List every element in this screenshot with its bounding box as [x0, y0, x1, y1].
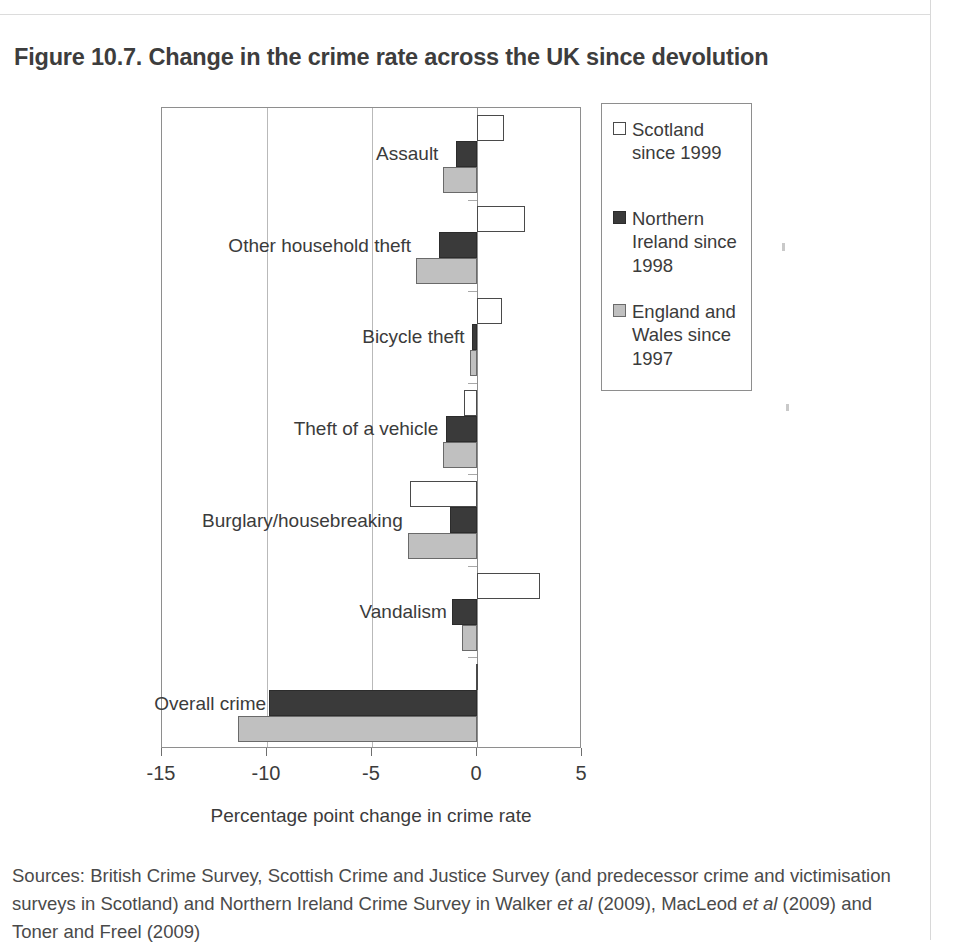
- bar-england-wales-other-household-theft: [416, 258, 477, 284]
- bar-england-wales-bicycle-theft: [470, 350, 477, 376]
- bar-northern-ireland-assault: [456, 141, 477, 167]
- bar-scotland-theft-of-a-vehicle: [464, 390, 477, 416]
- x-tick-label-5: 5: [575, 762, 586, 785]
- x-tick-label--10: -10: [252, 762, 281, 785]
- x-tick-label-0: 0: [470, 762, 481, 785]
- category-separator-tick: [468, 383, 477, 384]
- scan-speck: [786, 404, 789, 411]
- bar-scotland-vandalism: [477, 573, 540, 599]
- bar-northern-ireland-overall-crime: [269, 690, 477, 716]
- category-separator-tick: [468, 200, 477, 201]
- x-tick-mark-5: [581, 748, 582, 756]
- category-label-bicycle-theft: Bicycle theft: [45, 327, 465, 346]
- legend-swatch-northern-ireland-icon: [613, 211, 626, 224]
- category-separator-tick: [468, 566, 477, 567]
- gridline-0: [477, 108, 478, 747]
- category-label-burglary-housebreaking: Burglary/housebreaking: [0, 511, 403, 530]
- category-label-assault: Assault: [18, 144, 438, 163]
- x-tick-label--5: -5: [362, 762, 380, 785]
- bar-northern-ireland-vandalism: [452, 599, 477, 625]
- legend-item-scotland[interactable]: Scotland since 1999: [613, 118, 748, 165]
- x-tick-mark--10: [266, 748, 267, 756]
- legend-label-northern-ireland: Northern Ireland since 1998: [632, 207, 748, 277]
- bar-scotland-overall-crime: [476, 664, 478, 690]
- legend-swatch-scotland-icon: [613, 122, 626, 135]
- bar-scotland-burglary-housebreaking: [410, 481, 477, 507]
- sources-line-2-b: (2009), MacLeod: [592, 893, 737, 914]
- category-separator-tick: [468, 657, 477, 658]
- scan-speck: [782, 243, 785, 251]
- bar-northern-ireland-bicycle-theft: [472, 324, 477, 350]
- bar-scotland-other-household-theft: [477, 206, 525, 232]
- bar-northern-ireland-theft-of-a-vehicle: [446, 416, 478, 442]
- category-label-theft-of-a-vehicle: Theft of a vehicle: [18, 419, 438, 438]
- bar-england-wales-assault: [443, 167, 477, 193]
- bar-northern-ireland-burglary-housebreaking: [450, 507, 477, 533]
- bar-scotland-bicycle-theft: [477, 298, 502, 324]
- bar-northern-ireland-other-household-theft: [439, 232, 477, 258]
- sources-line-1: Sources: British Crime Survey, Scottish …: [12, 865, 785, 886]
- page-edge-top-rule: [0, 14, 930, 15]
- bar-england-wales-burglary-housebreaking: [408, 533, 477, 559]
- page-title: Figure 10.7. Change in the crime rate ac…: [14, 44, 894, 71]
- bar-england-wales-vandalism: [462, 625, 477, 651]
- legend-label-scotland: Scotland since 1999: [632, 118, 748, 165]
- x-tick-label--15: -15: [147, 762, 176, 785]
- legend-item-northern-ireland[interactable]: Northern Ireland since 1998: [613, 207, 748, 277]
- bar-england-wales-overall-crime: [238, 716, 477, 742]
- category-separator-tick: [468, 474, 477, 475]
- x-tick-mark-0: [476, 748, 477, 756]
- x-tick-mark--15: [161, 748, 162, 756]
- category-separator-tick: [468, 291, 477, 292]
- legend-label-england-wales: England and Wales since 1997: [632, 300, 748, 370]
- chart-legend: Scotland since 1999 Northern Ireland sin…: [601, 103, 752, 391]
- category-label-other-household-theft: Other household theft: [0, 236, 411, 255]
- bar-england-wales-theft-of-a-vehicle: [443, 442, 477, 468]
- legend-item-england-wales[interactable]: England and Wales since 1997: [613, 300, 748, 370]
- x-tick-mark--5: [371, 748, 372, 756]
- category-label-vandalism: Vandalism: [27, 602, 447, 621]
- sources-line-3-em: et al: [742, 893, 777, 914]
- sources-note: Sources: British Crime Survey, Scottish …: [12, 862, 917, 946]
- category-label-overall-crime: Overall crime: [0, 694, 266, 713]
- legend-swatch-england-wales-icon: [613, 304, 626, 317]
- page-edge-right-rule: [930, 0, 931, 940]
- sources-line-2-em: et al: [557, 893, 592, 914]
- x-axis-title: Percentage point change in crime rate: [161, 805, 581, 827]
- bar-scotland-assault: [477, 115, 504, 141]
